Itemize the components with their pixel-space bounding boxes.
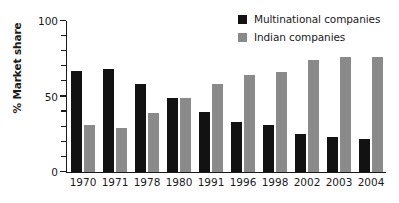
bar-1996-indian bbox=[244, 75, 255, 172]
bar-1980-indian bbox=[180, 98, 191, 172]
bar-2002-multinational bbox=[295, 134, 306, 172]
bar-group-1996 bbox=[231, 21, 255, 172]
bar-chart: Multinational companies Indian companies… bbox=[0, 0, 399, 203]
bar-group-1970 bbox=[71, 21, 95, 172]
bar-2003-indian bbox=[340, 57, 351, 172]
x-tick-label-1971: 1971 bbox=[102, 176, 129, 188]
bar-1991-multinational bbox=[199, 112, 210, 172]
bar-1970-indian bbox=[84, 125, 95, 172]
bar-group-2003 bbox=[327, 21, 351, 172]
bar-1991-indian bbox=[212, 84, 223, 172]
bar-1978-indian bbox=[148, 113, 159, 172]
x-tick-label-1970: 1970 bbox=[70, 176, 97, 188]
y-tick-label-100: 100 bbox=[32, 15, 58, 27]
bar-group-1991 bbox=[199, 21, 223, 172]
y-tick-label-50: 50 bbox=[32, 91, 58, 103]
bar-1971-indian bbox=[116, 128, 127, 172]
bar-group-2002 bbox=[295, 21, 319, 172]
bar-group-1980 bbox=[167, 21, 191, 172]
x-tick-label-1978: 1978 bbox=[134, 176, 161, 188]
x-tick-label-2003: 2003 bbox=[326, 176, 353, 188]
bar-1996-multinational bbox=[231, 122, 242, 172]
bar-1980-multinational bbox=[167, 98, 178, 172]
bars-layer bbox=[66, 21, 386, 172]
bar-2002-indian bbox=[308, 60, 319, 172]
bar-2004-indian bbox=[372, 57, 383, 172]
bar-group-1978 bbox=[135, 21, 159, 172]
y-tick-label-0: 0 bbox=[32, 166, 58, 178]
bar-1998-indian bbox=[276, 72, 287, 172]
bar-group-1998 bbox=[263, 21, 287, 172]
x-axis-line bbox=[66, 172, 386, 173]
y-axis-title: % Market share bbox=[11, 20, 23, 116]
bar-1970-multinational bbox=[71, 71, 82, 172]
bar-group-2004 bbox=[359, 21, 383, 172]
x-tick-label-2004: 2004 bbox=[358, 176, 385, 188]
x-tick-label-2002: 2002 bbox=[294, 176, 321, 188]
bar-1971-multinational bbox=[103, 69, 114, 172]
bar-2004-multinational bbox=[359, 139, 370, 172]
plot-area: 050100 bbox=[66, 21, 386, 172]
bar-2003-multinational bbox=[327, 137, 338, 172]
bar-group-1971 bbox=[103, 21, 127, 172]
x-tick-label-1998: 1998 bbox=[262, 176, 289, 188]
x-tick-label-1980: 1980 bbox=[166, 176, 193, 188]
x-axis-tick-labels: 1970197119781980199119961998200220032004 bbox=[66, 176, 386, 192]
x-tick-label-1996: 1996 bbox=[230, 176, 257, 188]
bar-1978-multinational bbox=[135, 84, 146, 172]
bar-1998-multinational bbox=[263, 125, 274, 172]
x-tick-label-1991: 1991 bbox=[198, 176, 225, 188]
